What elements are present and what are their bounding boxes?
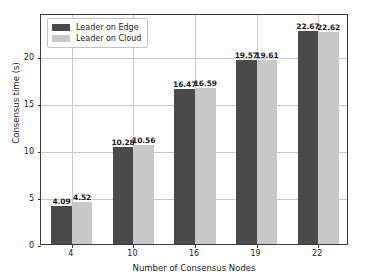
y-tick-mark bbox=[38, 199, 42, 200]
y-tick-label: 0 bbox=[29, 241, 34, 250]
bar-value-label: 22.62 bbox=[317, 23, 340, 32]
bar bbox=[257, 60, 278, 244]
y-tick-label: 20 bbox=[24, 53, 34, 62]
y-tick-label: 10 bbox=[24, 147, 34, 156]
bar bbox=[113, 147, 134, 244]
bar bbox=[51, 206, 72, 244]
chart-legend: Leader on Edge Leader on Cloud bbox=[47, 18, 148, 48]
x-tick-mark bbox=[257, 244, 258, 248]
bar-value-label: 4.52 bbox=[73, 193, 91, 202]
y-tick-label: 5 bbox=[29, 194, 34, 203]
y-axis-title: Consensus time (s) bbox=[11, 23, 21, 183]
plot-area: 4.094.5210.2810.5616.4716.5919.5719.6122… bbox=[40, 14, 348, 245]
y-tick-mark bbox=[38, 152, 42, 153]
bar-chart-figure: 4.094.5210.2810.5616.4716.5919.5719.6122… bbox=[0, 0, 373, 280]
legend-swatch-cloud bbox=[52, 35, 70, 42]
bar-value-label: 4.09 bbox=[52, 197, 70, 206]
bar bbox=[318, 32, 339, 244]
bar-value-label: 19.61 bbox=[255, 51, 278, 60]
legend-item-leader-on-edge: Leader on Edge bbox=[52, 22, 141, 33]
x-tick-label: 10 bbox=[127, 249, 137, 258]
bar bbox=[236, 60, 257, 244]
x-tick-label: 19 bbox=[251, 249, 261, 258]
x-tick-label: 4 bbox=[68, 249, 73, 258]
legend-item-leader-on-cloud: Leader on Cloud bbox=[52, 33, 141, 44]
x-tick-mark bbox=[72, 244, 73, 248]
bar bbox=[133, 145, 154, 244]
x-tick-mark bbox=[195, 244, 196, 248]
x-tick-label: 22 bbox=[312, 249, 322, 258]
x-tick-label: 16 bbox=[189, 249, 199, 258]
bar-value-label: 10.56 bbox=[132, 136, 155, 145]
bar bbox=[298, 31, 319, 244]
bars-layer: 4.094.5210.2810.5616.4716.5919.5719.6122… bbox=[41, 15, 347, 244]
x-tick-mark bbox=[133, 244, 134, 248]
bar-value-label: 16.59 bbox=[194, 79, 217, 88]
x-axis-title: Number of Consensus Nodes bbox=[40, 263, 348, 273]
y-tick-mark bbox=[38, 58, 42, 59]
legend-label-edge: Leader on Edge bbox=[76, 23, 139, 32]
bar bbox=[174, 89, 195, 244]
legend-label-cloud: Leader on Cloud bbox=[76, 34, 141, 43]
y-tick-mark bbox=[38, 105, 42, 106]
legend-swatch-edge bbox=[52, 24, 70, 31]
y-tick-label: 15 bbox=[24, 100, 34, 109]
x-tick-mark bbox=[318, 244, 319, 248]
bar bbox=[72, 202, 93, 244]
bar bbox=[195, 88, 216, 244]
y-tick-mark bbox=[38, 246, 42, 247]
